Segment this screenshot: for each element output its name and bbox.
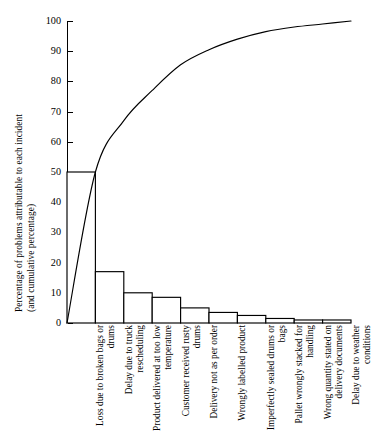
y-tick-label: 20 bbox=[33, 258, 61, 268]
y-tick-label: 10 bbox=[33, 288, 61, 298]
y-tick-label: 70 bbox=[33, 107, 61, 117]
y-tick-label: 100 bbox=[33, 16, 61, 26]
bar bbox=[294, 320, 322, 323]
bar bbox=[181, 308, 209, 323]
bar bbox=[237, 315, 265, 323]
y-tick-label: 80 bbox=[33, 76, 61, 86]
y-axis-title: Percentage of problems attributable to e… bbox=[0, 0, 34, 330]
x-axis-category-label: Imperfectly sealed drums or bags bbox=[266, 324, 294, 440]
bar bbox=[323, 320, 351, 323]
x-axis-category-label-text: Loss due to broken bags or drums bbox=[95, 324, 116, 440]
y-tick-label: 60 bbox=[33, 137, 61, 147]
x-axis-category-label-text: Delay due to truck rescheduling bbox=[124, 324, 145, 440]
y-tick-label: 90 bbox=[33, 46, 61, 56]
x-axis-category-label-text: Wrong quantity stated on delivery docume… bbox=[323, 324, 344, 440]
x-axis-category-label-text: Customer received rusty drums bbox=[181, 324, 202, 440]
y-tick-label: 0 bbox=[33, 318, 61, 328]
x-axis-category-label-text: Product delivered at too low temperature bbox=[152, 324, 173, 440]
x-axis-category-label: Loss due to broken bags or drums bbox=[95, 324, 123, 440]
y-tick-label: 40 bbox=[33, 197, 61, 207]
x-axis-category-label-text: Delivery not as per order bbox=[209, 324, 220, 440]
x-axis-category-label-text: Pallet wrongly stacked for handling bbox=[294, 324, 315, 440]
bar bbox=[124, 293, 152, 323]
plot-area bbox=[67, 21, 351, 323]
bar bbox=[266, 318, 294, 323]
y-tick-label: 50 bbox=[33, 167, 61, 177]
x-axis-category-label: Wrong quantity stated on delivery docume… bbox=[323, 324, 351, 440]
x-axis-category-label-text: Imperfectly sealed drums or bags bbox=[266, 324, 287, 440]
bar bbox=[152, 297, 180, 323]
x-axis-category-label: Delay due to weather conditions bbox=[351, 324, 375, 440]
x-axis-category-label: Delay due to truck rescheduling bbox=[124, 324, 152, 440]
x-axis-category-label: Product delivered at too low temperature bbox=[152, 324, 180, 440]
x-axis-category-label: Pallet wrongly stacked for handling bbox=[294, 324, 322, 440]
bars-group bbox=[67, 172, 351, 323]
bar bbox=[209, 312, 237, 323]
x-axis-category-label-text: Wrongly labelled product bbox=[237, 324, 248, 440]
x-axis-category-labels: Loss due to broken bags or drumsDelay du… bbox=[67, 324, 361, 440]
y-tick-label: 30 bbox=[33, 227, 61, 237]
x-axis-category-label: Customer received rusty drums bbox=[181, 324, 209, 440]
bar bbox=[95, 272, 123, 323]
x-axis-category-label-text: Delay due to weather conditions bbox=[351, 324, 372, 440]
x-axis-category-label: Delivery not as per order bbox=[209, 324, 237, 440]
plot-graphics bbox=[67, 21, 351, 323]
x-axis-category-label: Wrongly labelled product bbox=[237, 324, 265, 440]
y-axis-title-line-1: Percentage of problems attributable to e… bbox=[13, 114, 25, 312]
